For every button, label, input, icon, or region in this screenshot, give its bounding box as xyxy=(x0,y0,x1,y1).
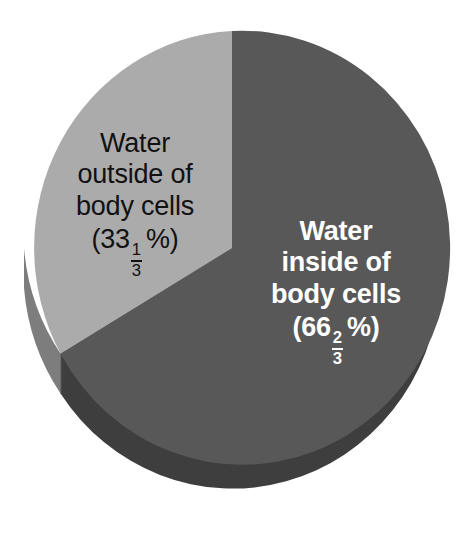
slice-label-line-2: outside of xyxy=(38,159,232,190)
value-open-paren: ( xyxy=(292,312,301,342)
slice-value-water-outside: (3313%) xyxy=(38,224,232,279)
value-percent-symbol: % xyxy=(146,224,170,254)
value-whole-number: 66 xyxy=(301,312,331,342)
fraction-numerator: 1 xyxy=(131,242,142,260)
pie-chart-figure: Water outside of body cells (3313%) Wate… xyxy=(0,0,471,536)
slice-label-water-inside: Water inside of body cells (6623%) xyxy=(238,216,434,367)
slice-label-line-1: Water xyxy=(38,128,232,159)
value-fraction: 13 xyxy=(131,242,142,279)
value-close-paren: ) xyxy=(170,224,179,254)
slice-label-line-3: body cells xyxy=(238,279,434,310)
fraction-numerator: 2 xyxy=(332,330,343,348)
slice-value-water-inside: (6623%) xyxy=(238,312,434,367)
value-close-paren: ) xyxy=(371,312,380,342)
value-open-paren: ( xyxy=(91,224,100,254)
slice-label-line-3: body cells xyxy=(38,191,232,222)
fraction-denominator: 3 xyxy=(131,262,142,280)
value-whole-number: 33 xyxy=(100,224,130,254)
value-fraction: 23 xyxy=(332,330,343,367)
value-percent-symbol: % xyxy=(347,312,371,342)
slice-label-water-outside: Water outside of body cells (3313%) xyxy=(38,128,232,279)
pie-cut-face xyxy=(61,354,63,395)
fraction-denominator: 3 xyxy=(332,350,343,368)
slice-label-line-1: Water xyxy=(238,216,434,247)
slice-label-line-2: inside of xyxy=(238,247,434,278)
